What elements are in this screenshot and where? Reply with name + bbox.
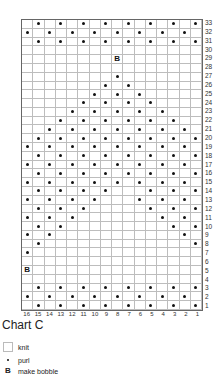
purl-dot-icon: [149, 304, 152, 307]
chart-cell: [157, 187, 168, 196]
purl-dot-icon: [104, 84, 107, 87]
column-label: 1: [192, 311, 203, 317]
chart-cell: [180, 117, 191, 126]
purl-dot-icon: [183, 163, 186, 166]
chart-cell: [112, 187, 123, 196]
chart-cell: [22, 240, 33, 249]
chart-cell: [90, 284, 101, 293]
chart-cell: [180, 284, 191, 293]
chart-cell: [180, 152, 191, 161]
chart-cell: [123, 143, 134, 152]
purl-dot-icon: [93, 31, 96, 34]
chart-cell: [168, 20, 179, 29]
chart-cell: [78, 73, 89, 82]
chart-cell: [45, 152, 56, 161]
chart-cell: [135, 292, 146, 301]
chart-cell: [33, 187, 44, 196]
chart-cell: [78, 196, 89, 205]
purl-dot-icon: [93, 128, 96, 131]
chart-cell: [90, 240, 101, 249]
legend-label-knit: knit: [18, 344, 29, 351]
chart-cell: [180, 38, 191, 47]
chart-cell: [135, 152, 146, 161]
chart-cell: [180, 301, 191, 310]
chart-cell: [135, 46, 146, 55]
purl-dot-icon: [116, 145, 119, 148]
chart-cell: [22, 73, 33, 82]
chart-cell: [33, 55, 44, 64]
chart-cell: [101, 178, 112, 187]
chart-cell: [123, 301, 134, 310]
purl-dot-icon: [93, 93, 96, 96]
row-label: 27: [205, 72, 212, 81]
row-label: 3: [205, 284, 209, 293]
chart-cell: [45, 266, 56, 275]
chart-cell: [146, 90, 157, 99]
chart-cell: [45, 231, 56, 240]
chart-cell: [33, 38, 44, 47]
chart-cell: [45, 169, 56, 178]
purl-dot-icon: [37, 154, 40, 157]
chart-cell: [191, 178, 202, 187]
chart-cell: [157, 108, 168, 117]
chart-cell: [123, 284, 134, 293]
chart-cell: [101, 73, 112, 82]
chart-cell: [45, 90, 56, 99]
chart-cell: [90, 213, 101, 222]
chart-cell: [112, 292, 123, 301]
purl-dot-icon: [59, 286, 62, 289]
chart-cell: [33, 301, 44, 310]
chart-cell: [101, 90, 112, 99]
purl-dot-icon: [26, 295, 29, 298]
chart-cell: [123, 187, 134, 196]
chart-cell: [157, 231, 168, 240]
purl-dot-icon: [138, 93, 141, 96]
chart-cell: [191, 231, 202, 240]
purl-dot-icon: [172, 225, 175, 228]
chart-cell: [112, 20, 123, 29]
chart-cell: [180, 125, 191, 134]
chart-cell: [180, 248, 191, 257]
column-label: 13: [55, 311, 66, 317]
chart-cell: [67, 90, 78, 99]
knit-symbol-icon: [3, 342, 13, 352]
chart-cell: [56, 82, 67, 91]
chart-cell: [123, 178, 134, 187]
chart-cell: [191, 292, 202, 301]
purl-dot-icon: [183, 295, 186, 298]
purl-dot-icon: [37, 22, 40, 25]
chart-cell: [101, 169, 112, 178]
chart-cell: [67, 108, 78, 117]
purl-dot-icon: [48, 163, 51, 166]
chart-cell: [101, 29, 112, 38]
purl-dot-icon: [93, 145, 96, 148]
chart-cell: [146, 292, 157, 301]
purl-dot-icon: [48, 295, 51, 298]
chart-cell: [101, 187, 112, 196]
chart-cell: [191, 64, 202, 73]
chart-cell: [33, 29, 44, 38]
purl-dot-icon: [149, 189, 152, 192]
chart-cell: [112, 205, 123, 214]
row-label: 30: [205, 46, 212, 55]
chart-cell: [123, 125, 134, 134]
chart-cell: [135, 125, 146, 134]
chart-cell: [78, 38, 89, 47]
purl-dot-icon: [37, 137, 40, 140]
chart-cell: [157, 161, 168, 170]
purl-dot-icon: [127, 172, 130, 175]
chart-cell: [146, 196, 157, 205]
chart-cell: [78, 248, 89, 257]
row-label: 12: [205, 205, 212, 214]
chart-cell: [146, 117, 157, 126]
purl-dot-icon: [93, 181, 96, 184]
chart-cell: [180, 108, 191, 117]
chart-cell: [22, 231, 33, 240]
purl-dot-icon: [138, 128, 141, 131]
purl-dot-icon: [149, 22, 152, 25]
chart-cell: [67, 117, 78, 126]
chart-cell: [135, 284, 146, 293]
purl-dot-icon: [116, 110, 119, 113]
chart-cell: [33, 64, 44, 73]
purl-dot-icon: [82, 137, 85, 140]
